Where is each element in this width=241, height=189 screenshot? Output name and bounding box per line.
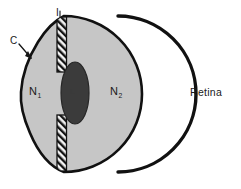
iris-upper-bar [57,17,67,72]
label-retina: Retina [190,87,222,98]
iris-lower-leaf [57,115,67,171]
label-iris: I [56,8,59,18]
label-cornea: C [10,36,17,46]
eye-diagram-figure: I C N1 N2 L Retina [0,0,241,189]
label-n2-subscript: 2 [118,92,122,99]
label-refractive-index-n1: N1 [29,86,41,97]
label-n2-base: N [110,85,118,97]
label-n1-base: N [29,85,37,97]
label-refractive-index-n2: N2 [110,86,122,97]
label-lens: L [70,88,74,96]
iris-lower-bar [57,115,67,171]
iris-upper-leaf [57,17,67,72]
crystalline-lens [61,62,89,124]
cornea-leader-arrow [19,44,32,59]
label-n1-subscript: 1 [37,92,41,99]
